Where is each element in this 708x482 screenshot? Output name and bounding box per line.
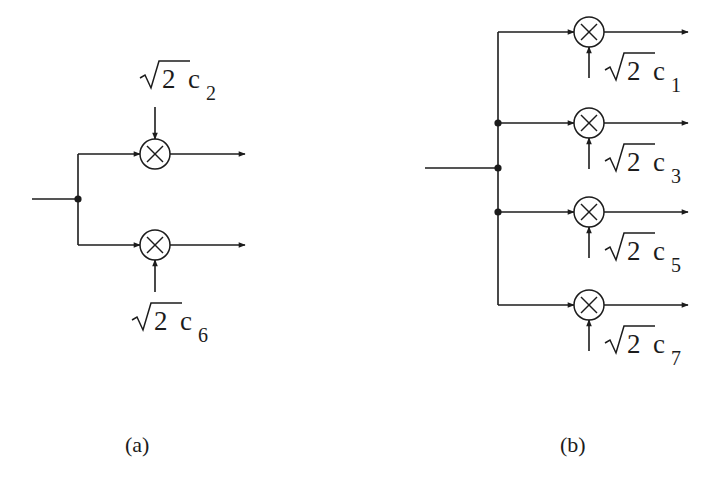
multiplier-circle-x-icon: [574, 17, 604, 47]
gain-label: √2 c12c1: [605, 53, 681, 96]
branch-4: √2 c72c7: [498, 290, 688, 369]
branch-3: √2 c52c5: [498, 197, 688, 276]
gain-variable: c: [653, 236, 665, 266]
gain-variable: c: [180, 306, 192, 336]
multiplier-circle-x-icon: [140, 139, 170, 169]
gain-radicand: 2: [627, 147, 641, 177]
gain-label: √2 c62c6: [132, 303, 208, 346]
gain-variable: c: [188, 64, 200, 94]
gain-label: √2 c72c7: [605, 326, 681, 369]
multiplier-circle-x-icon: [574, 108, 604, 138]
diagram-a: √2 c22c2√2 c62c6: [32, 61, 245, 346]
gain-subscript: 2: [206, 82, 216, 104]
gain-radicand: 2: [627, 236, 641, 266]
gain-radicand: 2: [162, 64, 176, 94]
gain-radicand: 2: [154, 306, 168, 336]
multiplier-circle-x-icon: [574, 197, 604, 227]
multiplier-circle-x-icon: [140, 230, 170, 260]
gain-subscript: 6: [198, 324, 208, 346]
gain-subscript: 3: [671, 165, 681, 187]
branch-1: √2 c12c1: [498, 17, 688, 96]
junction-dot-icon: [494, 164, 501, 171]
gain-label: √2 c32c3: [605, 144, 681, 187]
gain-subscript: 1: [671, 74, 681, 96]
branch-2: √2 c62c6: [78, 230, 245, 346]
figure-canvas: √2 c22c2√2 c62c6 √2 c12c1√2 c32c3√2 c52c…: [0, 0, 708, 482]
gain-label: √2 c52c5: [605, 233, 681, 276]
multiplier-circle-x-icon: [574, 290, 604, 320]
gain-subscript: 7: [671, 347, 681, 369]
gain-subscript: 5: [671, 254, 681, 276]
gain-variable: c: [653, 329, 665, 359]
gain-radicand: 2: [627, 56, 641, 86]
caption-a: (a): [125, 432, 149, 457]
branch-2: √2 c32c3: [498, 108, 688, 187]
gain-label: √2 c22c2: [140, 61, 216, 104]
branch-1: √2 c22c2: [78, 61, 245, 169]
gain-radicand: 2: [627, 329, 641, 359]
diagram-b: √2 c12c1√2 c32c3√2 c52c5√2 c72c7: [425, 17, 688, 369]
gain-variable: c: [653, 147, 665, 177]
junction-dot-icon: [74, 195, 81, 202]
caption-b: (b): [560, 432, 586, 457]
gain-variable: c: [653, 56, 665, 86]
